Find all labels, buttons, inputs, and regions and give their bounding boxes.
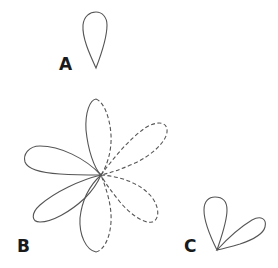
figure-b-lobe-up-dashed [96,99,111,175]
figure-c [204,197,265,250]
diagram-canvas [0,0,278,268]
figure-b-lobe-lowerleft [33,175,101,222]
figure-b-lobe-down-solid [80,175,101,252]
figure-c-lobe-up [204,197,227,250]
figure-label-a: A [59,56,72,73]
figure-b-lobe-down-dashed [96,175,111,252]
figure-b [25,99,167,252]
figure-label-c: C [184,238,196,255]
figure-b-lobe-lowerright [101,175,158,222]
figure-label-b: B [17,238,30,255]
figure-a-lobe [83,12,107,68]
figure-c-lobe-right [217,218,265,250]
